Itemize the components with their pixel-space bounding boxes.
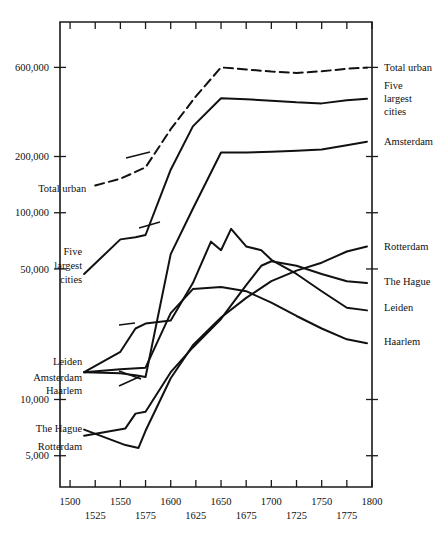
x-tick-label: 1800 — [362, 496, 383, 507]
x-tick-label: 1525 — [85, 510, 106, 521]
series-line-rotterdam — [84, 246, 367, 448]
y-tick-label: 200,000 — [15, 151, 49, 162]
x-axis-ticks-top — [70, 22, 372, 29]
plot-frame — [60, 22, 372, 487]
leader-line — [126, 152, 150, 158]
y-axis-tick-labels: 600,000200,000100,00050,00010,0005,000 — [15, 62, 49, 461]
x-tick-label: 1750 — [311, 496, 332, 507]
series-label-right: Five — [384, 80, 403, 91]
series-label-left: Haarlem — [46, 385, 82, 396]
right-series-labels: Total urbanFivelargestcitiesAmsterdamRot… — [384, 62, 433, 347]
y-tick-label: 600,000 — [15, 62, 49, 73]
x-tick-label: 1600 — [160, 496, 181, 507]
x-tick-label: 1775 — [336, 510, 357, 521]
data-series-group — [84, 67, 367, 448]
series-label-right: Total urban — [384, 62, 433, 73]
series-label-left: The Hague — [36, 423, 83, 434]
series-label-left: largest — [54, 260, 82, 271]
series-label-right: Leiden — [384, 302, 414, 313]
series-line-haarlem — [84, 287, 367, 372]
x-tick-label: 1675 — [236, 510, 257, 521]
x-axis-tick-labels: 1500155016001650170017501800152515751625… — [60, 496, 383, 521]
series-label-left: Amsterdam — [33, 372, 82, 383]
x-tick-label: 1700 — [261, 496, 282, 507]
series-line-total-urban — [95, 67, 367, 185]
x-tick-label: 1725 — [286, 510, 307, 521]
series-label-right: Amsterdam — [384, 136, 433, 147]
series-label-right: largest — [384, 93, 412, 104]
series-label-left: Total urban — [38, 183, 87, 194]
x-tick-label: 1575 — [135, 510, 156, 521]
series-line-leiden — [84, 229, 367, 372]
y-tick-label: 50,000 — [20, 264, 49, 275]
y-tick-label: 10,000 — [20, 394, 49, 405]
axis-frame — [60, 22, 372, 487]
chart-container: 600,000200,000100,00050,00010,0005,000 1… — [0, 0, 446, 537]
series-line-five-largest-cities — [84, 98, 367, 274]
series-label-right: cities — [384, 106, 406, 117]
leader-line — [119, 376, 141, 386]
x-tick-label: 1550 — [110, 496, 131, 507]
x-axis-ticks — [70, 480, 372, 487]
series-label-right: Haarlem — [384, 336, 420, 347]
series-label-left: Rotterdam — [38, 441, 82, 452]
x-tick-label: 1625 — [185, 510, 206, 521]
series-label-left: cities — [60, 274, 82, 285]
series-label-left: Leiden — [53, 356, 83, 367]
series-label-left: Five — [63, 246, 82, 257]
series-label-right: Rotterdam — [384, 241, 428, 252]
line-chart-svg: 600,000200,000100,00050,00010,0005,000 1… — [0, 0, 446, 537]
x-tick-label: 1650 — [211, 496, 232, 507]
x-tick-label: 1500 — [60, 496, 81, 507]
y-tick-label: 100,000 — [15, 207, 49, 218]
series-label-right: The Hague — [384, 276, 431, 287]
leader-line — [119, 323, 135, 325]
